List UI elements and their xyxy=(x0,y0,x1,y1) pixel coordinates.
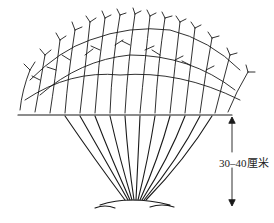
canopy xyxy=(20,8,255,113)
height-annotation: 30–40厘米 xyxy=(219,154,269,170)
shrub-drawing xyxy=(0,0,274,223)
shrub-pruning-diagram: 30–40厘米 xyxy=(0,0,274,223)
stems xyxy=(65,116,212,208)
